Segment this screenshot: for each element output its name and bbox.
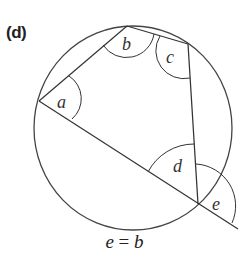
angle-label-b: b: [122, 34, 131, 54]
angle-label-a: a: [57, 92, 66, 112]
angle-label-e: e: [212, 194, 220, 214]
caption-left: e: [105, 231, 113, 252]
cyclic-quadrilateral-diagram: a b c d e: [0, 0, 249, 256]
side-ad-extended: [39, 101, 238, 229]
arc-d: [148, 144, 194, 172]
arc-a: [69, 76, 81, 119]
side-cd: [188, 44, 198, 204]
caption-right: b: [134, 231, 144, 252]
side-ab: [39, 26, 127, 101]
angle-label-c: c: [166, 47, 174, 67]
angle-label-d: d: [173, 156, 183, 176]
equation-caption: e = b: [0, 231, 249, 253]
caption-equals: =: [114, 231, 134, 252]
